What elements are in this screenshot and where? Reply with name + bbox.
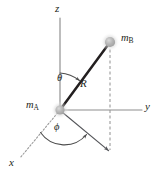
- mass-b-subscript: B: [129, 36, 134, 45]
- spherical-coordinate-diagram: z y x mB mA θ ϕ R: [0, 0, 159, 177]
- polar-angle-arc: [60, 73, 80, 81]
- mass-b-sphere: [105, 37, 115, 47]
- mass-a-label: mA: [26, 100, 39, 111]
- mass-b-label: mB: [121, 33, 134, 44]
- mass-a-sphere: [55, 105, 64, 114]
- z-axis-label: z: [55, 3, 59, 14]
- x-axis-line: [20, 110, 60, 158]
- azimuthal-angle-label: ϕ: [54, 122, 59, 133]
- x-axis-label: x: [9, 157, 14, 168]
- mass-b-symbol: m: [121, 32, 129, 43]
- mass-a-subscript: A: [34, 103, 39, 112]
- y-axis-label: y: [145, 101, 150, 112]
- mass-a-symbol: m: [26, 99, 34, 110]
- radial-vector-label: R: [80, 78, 87, 89]
- polar-angle-label: θ: [57, 73, 62, 84]
- azimuthal-angle-arc: [41, 133, 87, 145]
